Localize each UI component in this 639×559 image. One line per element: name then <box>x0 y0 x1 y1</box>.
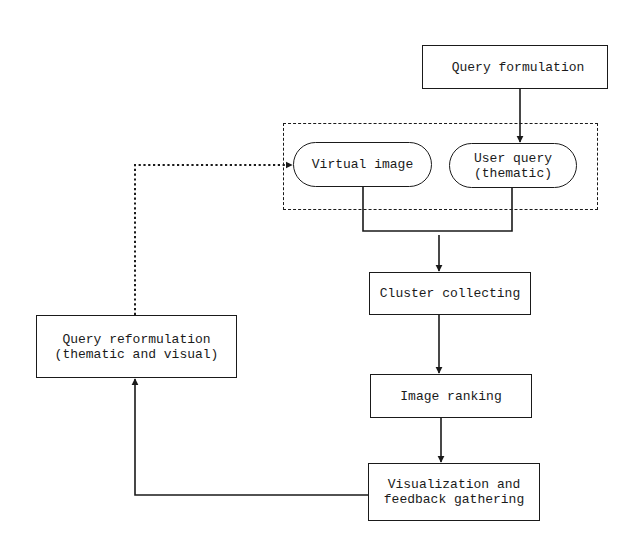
user-query-pill: User query (thematic) <box>449 143 577 188</box>
edge-visualization-to-reformulation <box>135 379 368 495</box>
cluster-collecting-label: Cluster collecting <box>380 286 520 301</box>
query-formulation-label: Query formulation <box>452 60 585 75</box>
user-query-label: User query (thematic) <box>474 151 552 181</box>
image-ranking-box: Image ranking <box>370 374 532 418</box>
image-ranking-label: Image ranking <box>400 389 501 404</box>
cluster-collecting-box: Cluster collecting <box>369 272 531 315</box>
query-reformulation-label: Query reformulation (thematic and visual… <box>55 332 219 362</box>
visualization-label: Visualization and feedback gathering <box>384 477 524 507</box>
virtual-image-label: Virtual image <box>312 157 413 172</box>
query-formulation-box: Query formulation <box>422 45 608 89</box>
visualization-box: Visualization and feedback gathering <box>368 463 540 521</box>
virtual-image-pill: Virtual image <box>293 142 432 187</box>
edge-reformulation-to-virtual-image <box>135 165 292 315</box>
query-reformulation-box: Query reformulation (thematic and visual… <box>36 315 237 378</box>
